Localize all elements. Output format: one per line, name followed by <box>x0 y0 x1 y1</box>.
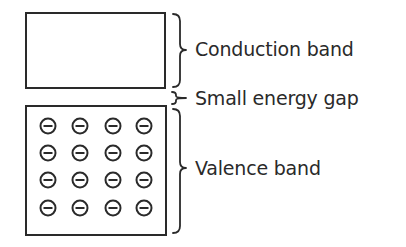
electron-icon <box>41 119 56 134</box>
bands-group <box>26 13 166 235</box>
electron-icon <box>41 146 56 161</box>
valence-brace-icon <box>173 109 186 233</box>
electron-icon <box>73 146 88 161</box>
electron-icon <box>137 146 152 161</box>
conduction-band-box <box>26 13 165 88</box>
electron-icon <box>41 173 56 188</box>
electron-icon <box>137 201 152 216</box>
electrons-group <box>41 119 152 216</box>
gap-brace-icon <box>172 92 186 104</box>
electron-icon <box>106 201 121 216</box>
electron-icon <box>106 119 121 134</box>
electron-icon <box>73 173 88 188</box>
electron-icon <box>73 119 88 134</box>
band-diagram: Conduction band Small energy gap Valence… <box>0 0 406 247</box>
conduction-band-label: Conduction band <box>195 40 354 59</box>
energy-gap-label: Small energy gap <box>195 89 359 108</box>
electron-icon <box>41 201 56 216</box>
electron-icon <box>137 119 152 134</box>
braces-group <box>172 14 186 233</box>
electron-icon <box>137 173 152 188</box>
conduction-brace-icon <box>173 14 186 87</box>
electron-icon <box>73 201 88 216</box>
electron-icon <box>106 146 121 161</box>
valence-band-label: Valence band <box>195 159 321 178</box>
electron-icon <box>106 173 121 188</box>
